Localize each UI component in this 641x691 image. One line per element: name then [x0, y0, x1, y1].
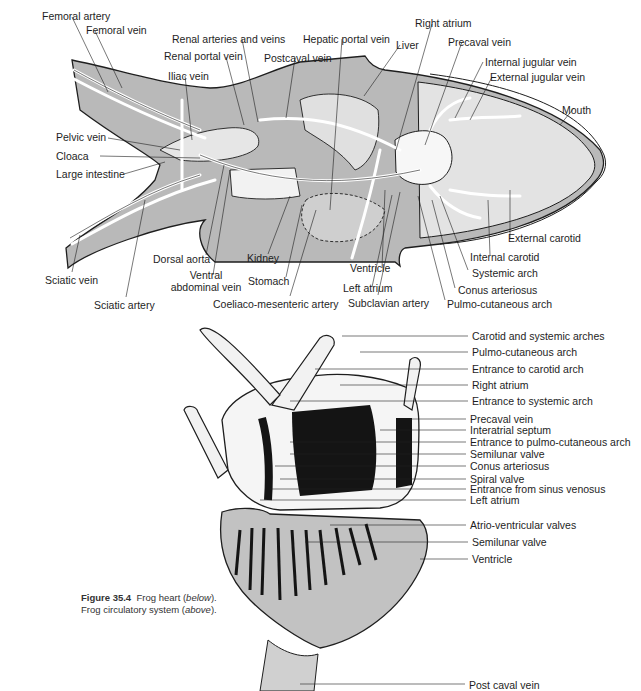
- figure-caption: Figure 35.4 Frog heart (below). Frog cir…: [81, 592, 217, 615]
- label-ventricle: Ventricle: [350, 262, 390, 274]
- label-conus-arteriosus: Conus arteriosus: [458, 284, 537, 296]
- pulmo-cutaneous-vessel: [184, 406, 228, 478]
- label-cloaca: Cloaca: [56, 150, 89, 162]
- label-hepatic-portal-vein: Hepatic portal vein: [303, 33, 390, 45]
- label-ventricle-heart: Ventricle: [472, 553, 512, 565]
- left-atrium-cavity: [396, 418, 412, 488]
- label-postcaval-vein: Postcaval vein: [264, 52, 332, 64]
- label-ventral-abdominal-vein: Ventral abdominal vein: [168, 269, 244, 293]
- right-atrium-cavity: [292, 405, 376, 496]
- caption-end-1: ).: [211, 592, 217, 603]
- figure-number: Figure 35.4: [81, 592, 131, 603]
- label-carotid-and-systemic-arches: Carotid and systemic arches: [472, 330, 604, 342]
- post-caval-vein-shape: [260, 640, 318, 691]
- label-sciatic-artery: Sciatic artery: [94, 299, 155, 311]
- label-coeliaco-mesenteric-artery: Coeliaco-mesenteric artery: [213, 298, 338, 310]
- label-pulmo-cutaneous-arch-heart: Pulmo-cutaneous arch: [472, 346, 577, 358]
- label-dorsal-aorta: Dorsal aorta: [153, 253, 210, 265]
- figure-canvas: Femoral artery Femoral vein Renal arteri…: [0, 0, 641, 691]
- caption-italic-2: above: [185, 604, 211, 615]
- caption-italic-1: below: [186, 592, 211, 603]
- label-pelvic-vein: Pelvic vein: [56, 131, 106, 143]
- label-right-atrium-heart: Right atrium: [472, 379, 529, 391]
- label-femoral-vein: Femoral vein: [86, 24, 147, 36]
- label-pulmo-cutaneous-arch: Pulmo-cutaneous arch: [447, 298, 552, 310]
- caption-line-2: Frog circulatory system (above).: [81, 604, 217, 616]
- label-right-atrium: Right atrium: [415, 17, 472, 29]
- label-interatrial-septum: Interatrial septum: [470, 424, 551, 436]
- label-semilunar-valve-upper: Semilunar valve: [470, 448, 545, 460]
- label-semilunar-valve-lower: Semilunar valve: [472, 536, 547, 548]
- label-internal-jugular-vein: Internal jugular vein: [485, 56, 577, 68]
- heart-shape: [395, 131, 452, 185]
- label-sciatic-vein: Sciatic vein: [45, 274, 98, 286]
- caption-line-1: Figure 35.4 Frog heart (below).: [81, 592, 217, 604]
- caption-text-2: Frog circulatory system (: [81, 604, 185, 615]
- label-conus-arteriosus-heart: Conus arteriosus: [470, 460, 549, 472]
- label-external-carotid: External carotid: [508, 232, 581, 244]
- label-kidney: Kidney: [247, 252, 279, 264]
- label-systemic-arch: Systemic arch: [472, 267, 538, 279]
- label-precaval-vein: Precaval vein: [448, 36, 511, 48]
- label-renal-portal-vein: Renal portal vein: [164, 50, 243, 62]
- label-liver: Liver: [396, 39, 419, 51]
- label-internal-carotid: Internal carotid: [470, 251, 539, 263]
- label-large-intestine: Large intestine: [56, 168, 125, 180]
- label-external-jugular-vein: External jugular vein: [490, 71, 585, 83]
- label-left-atrium: Left atrium: [343, 282, 393, 294]
- label-mouth: Mouth: [562, 104, 591, 116]
- right-vessel: [404, 358, 420, 410]
- label-entrance-to-systemic-arch: Entrance to systemic arch: [472, 395, 593, 407]
- caption-text-1: Frog heart (: [136, 592, 186, 603]
- kidney-shape: [230, 168, 300, 199]
- label-iliac-vein: Iliac vein: [168, 70, 209, 82]
- left-arch: [200, 328, 280, 405]
- label-left-atrium-heart: Left atrium: [470, 494, 520, 506]
- label-stomach: Stomach: [248, 275, 289, 287]
- label-entrance-to-pulmo-cutaneous-arch: Entrance to pulmo-cutaneous arch: [470, 436, 631, 448]
- caption-end-2: ).: [211, 604, 217, 615]
- label-atrio-ventricular-valves: Atrio-ventricular valves: [470, 519, 576, 531]
- label-subclavian-artery: Subclavian artery: [348, 297, 429, 309]
- label-post-caval-vein: Post caval vein: [469, 679, 540, 691]
- label-renal-arteries-and-veins: Renal arteries and veins: [172, 33, 285, 45]
- label-entrance-to-carotid-arch: Entrance to carotid arch: [472, 363, 583, 375]
- label-femoral-artery: Femoral artery: [42, 10, 110, 22]
